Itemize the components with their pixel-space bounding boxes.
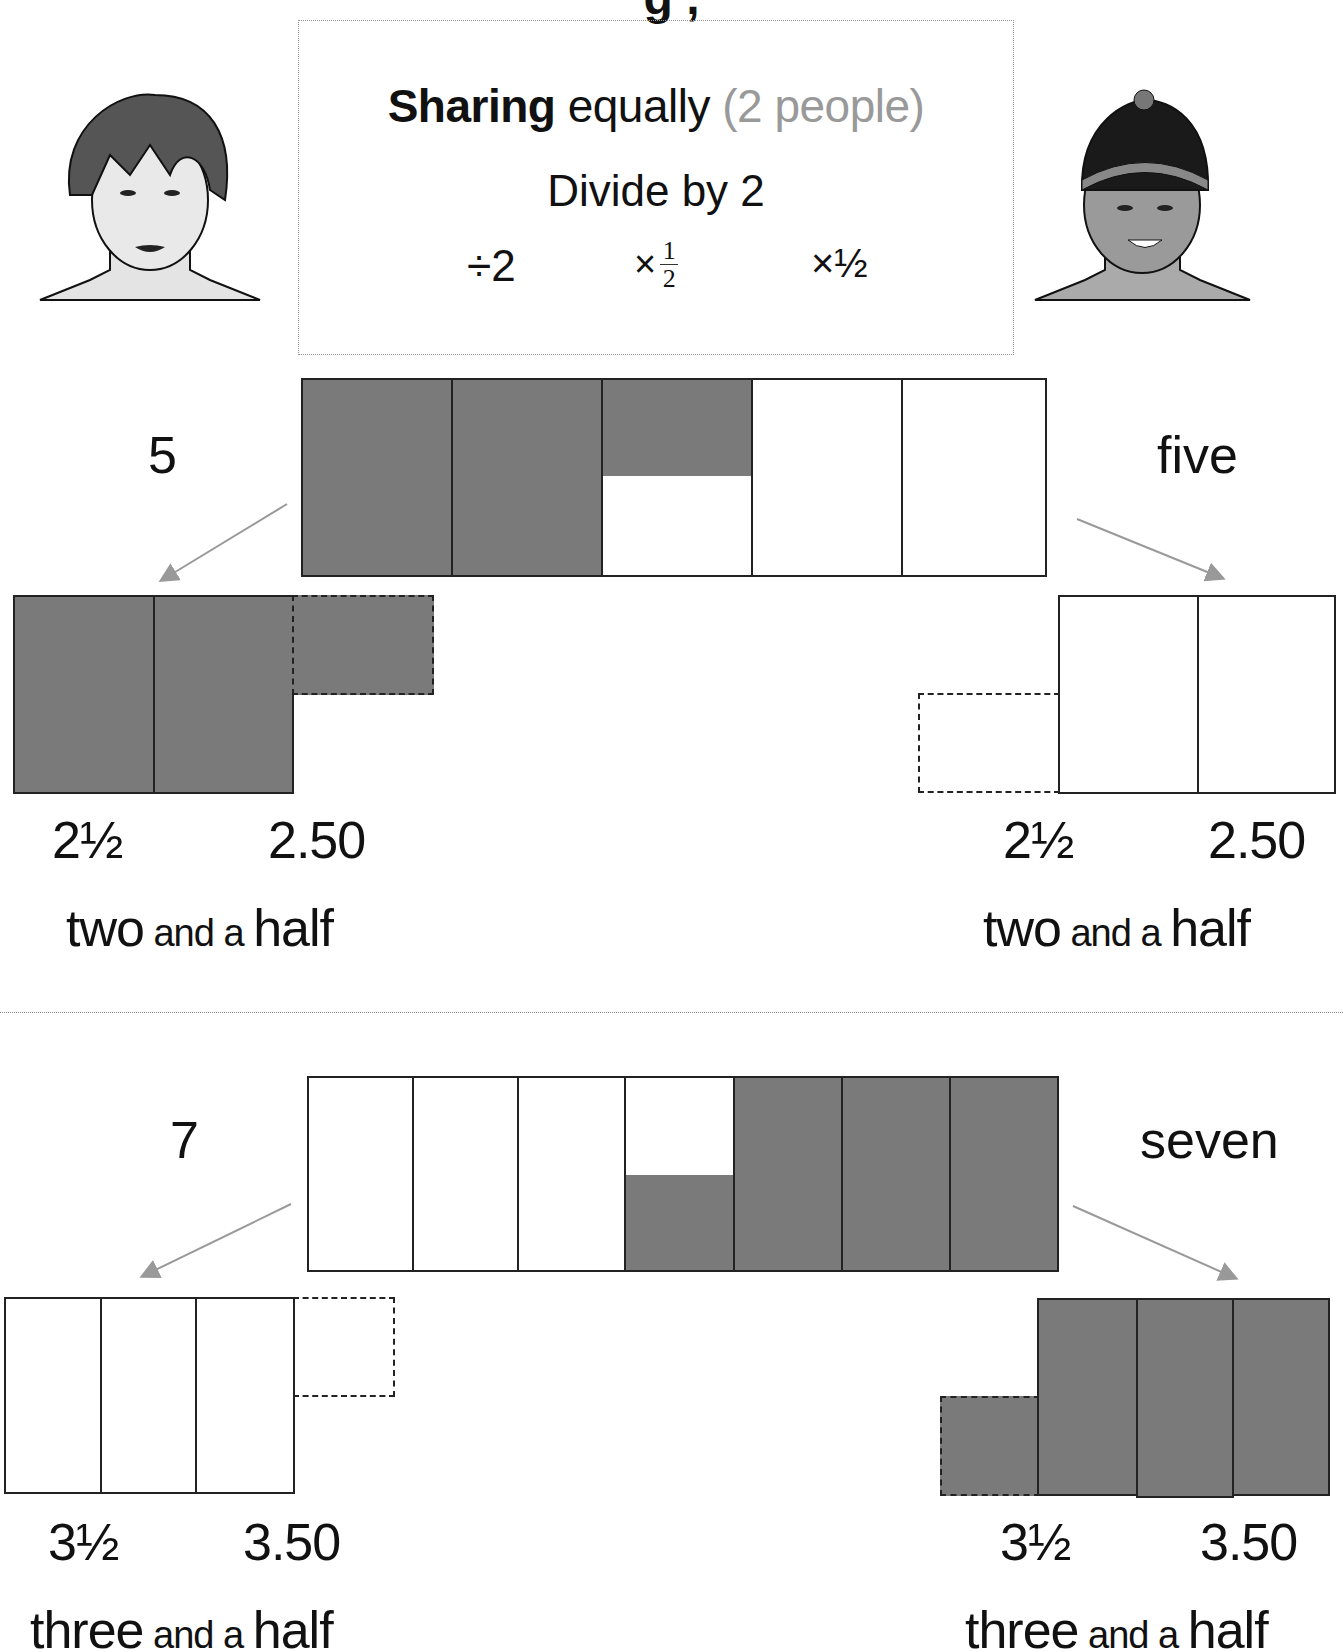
bar-cell — [517, 1076, 626, 1272]
words-half: half — [1170, 899, 1250, 957]
bar-cell-half-shaded — [624, 1076, 735, 1272]
half-cell-dashed — [293, 1297, 395, 1397]
share-cell — [1037, 1298, 1138, 1496]
seven-right-words: three and a half — [965, 1600, 1268, 1652]
words-and-a: and a — [144, 912, 253, 954]
bar-cell — [841, 1076, 951, 1272]
share-cell — [1136, 1298, 1234, 1498]
number-seven-digit: 7 — [170, 1110, 199, 1170]
words-half: half — [253, 899, 333, 957]
share-cell — [1232, 1298, 1330, 1496]
five-right-decimal: 2.50 — [1208, 810, 1305, 870]
words-half: half — [253, 1601, 333, 1652]
words-whole: two — [983, 899, 1061, 957]
number-seven-word: seven — [1140, 1110, 1279, 1170]
bar-cell — [733, 1076, 843, 1272]
arrow-right-icon — [1073, 1206, 1235, 1278]
share-cell — [195, 1297, 295, 1494]
bar-cell — [949, 1076, 1059, 1272]
share-cell — [1197, 595, 1336, 794]
share-cell — [1058, 595, 1199, 794]
words-whole: two — [66, 899, 144, 957]
words-half: half — [1188, 1601, 1268, 1652]
arrow-right-icon — [1077, 519, 1222, 578]
seven-left-decimal: 3.50 — [243, 1512, 340, 1572]
seven-right-decimal: 3.50 — [1200, 1512, 1297, 1572]
words-and-a: and a — [144, 1614, 253, 1652]
share-cell — [13, 595, 155, 794]
share-cell — [153, 595, 294, 794]
seven-left-words: three and a half — [30, 1600, 333, 1652]
five-right-fraction: 2½ — [1003, 810, 1073, 870]
seven-left-fraction: 3½ — [48, 1512, 118, 1572]
share-cell — [4, 1297, 102, 1494]
five-left-decimal: 2.50 — [268, 810, 365, 870]
five-left-fraction: 2½ — [52, 810, 122, 870]
words-whole: three — [30, 1601, 144, 1652]
bar-cell — [412, 1076, 519, 1272]
share-cell — [100, 1297, 197, 1494]
half-cell-dashed — [940, 1396, 1040, 1496]
words-and-a: and a — [1079, 1614, 1188, 1652]
five-left-words: two and a half — [66, 898, 333, 958]
words-and-a: and a — [1061, 912, 1170, 954]
words-whole: three — [965, 1601, 1079, 1652]
half-shade — [626, 1175, 733, 1270]
bar-cell — [307, 1076, 414, 1272]
arrow-left-icon — [162, 504, 287, 580]
section-divider — [0, 1012, 1343, 1013]
half-cell-dashed — [292, 595, 434, 695]
seven-right-fraction: 3½ — [1000, 1512, 1070, 1572]
arrow-left-icon — [143, 1204, 291, 1276]
five-right-words: two and a half — [983, 898, 1250, 958]
half-cell-dashed — [918, 693, 1060, 793]
